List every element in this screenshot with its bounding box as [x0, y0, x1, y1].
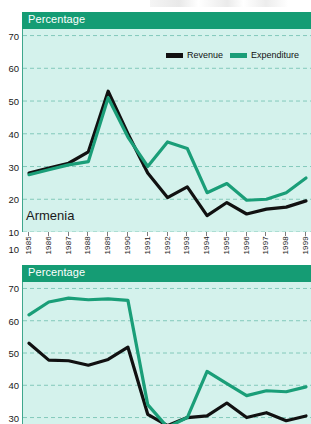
chart-header-bar-2: Percentage	[22, 265, 311, 282]
series-line-expenditure	[29, 98, 306, 200]
chart-header-bar-armenia: Percentage	[22, 12, 311, 29]
x-axis-tick-label: 1994	[202, 236, 211, 255]
plot-area-2	[22, 282, 311, 424]
chart-header-label-armenia: Percentage	[28, 13, 85, 25]
y-axis-tick-label: 10	[8, 244, 19, 255]
y-axis-tick-label: 50	[8, 96, 19, 107]
legend-swatch-expenditure-icon	[230, 53, 247, 58]
x-axis-tick-label: 1986	[44, 236, 53, 255]
y-axis-tick-label: 60	[8, 315, 19, 326]
page-top-artifact	[150, 0, 311, 7]
y-axis-tick-label: 60	[8, 63, 19, 74]
y-axis-tick-label: 50	[8, 348, 19, 359]
chart-country-label-armenia: Armenia	[26, 208, 74, 223]
x-axis-tick-label: 1988	[83, 236, 92, 255]
chart-legend-armenia: Revenue Expenditure	[166, 50, 299, 60]
legend-item-revenue-armenia: Revenue	[166, 50, 223, 60]
y-axis-tick-label: 10	[8, 227, 19, 238]
y-axis-tick-label: 30	[8, 412, 19, 423]
y-axis-tick-label: 20	[8, 194, 19, 205]
y-axis-labels-2: 7060504030	[0, 265, 22, 424]
legend-item-expenditure-armenia: Expenditure	[230, 50, 299, 60]
x-axis-tick-label: 1987	[64, 236, 73, 255]
x-axis-tick-label: 1992	[163, 236, 172, 255]
y-axis-tick-label: 70	[8, 30, 19, 41]
y-axis-tick-label: 30	[8, 161, 19, 172]
legend-label-expenditure: Expenditure	[251, 50, 299, 60]
x-axis-tick-label: 1997	[261, 236, 270, 255]
x-axis-tick-label: 1999	[301, 236, 310, 255]
series-line-revenue	[29, 343, 306, 424]
y-axis-labels-armenia: 7060504030201010	[0, 12, 22, 232]
x-axis-tick-label: 1989	[103, 236, 112, 255]
x-axis-tick-label: 1985	[24, 236, 33, 255]
chart-header-label-2: Percentage	[28, 266, 85, 278]
chart-svg-2	[23, 282, 311, 424]
x-axis-tick-label: 1993	[182, 236, 191, 255]
x-axis-tick-label: 1995	[222, 236, 231, 255]
series-line-revenue	[29, 91, 306, 215]
x-axis-tick-label: 1998	[281, 236, 290, 255]
y-axis-tick-label: 40	[8, 380, 19, 391]
legend-label-revenue: Revenue	[187, 50, 223, 60]
x-axis-tick-label: 1996	[242, 236, 251, 255]
x-axis-tick-label: 1990	[123, 236, 132, 255]
x-axis-tick-label: 1991	[143, 236, 152, 255]
legend-swatch-revenue-icon	[166, 53, 183, 58]
screenshot-root: Percentage Revenue Expenditure Armenia 7…	[0, 0, 311, 424]
y-axis-tick-label: 70	[8, 283, 19, 294]
y-axis-tick-label: 40	[8, 128, 19, 139]
